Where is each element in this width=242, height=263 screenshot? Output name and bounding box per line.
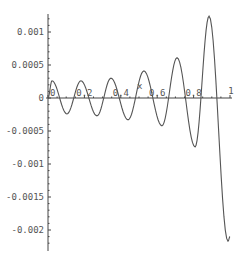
line-chart: 0.0010.00050-0.0005-0.001-0.0015-0.002 0… [0, 0, 242, 263]
y-axis-ticks: 0.0010.00050-0.0005-0.001-0.0015-0.002 [6, 19, 51, 243]
x-tick-label: 0.2 [76, 88, 92, 98]
y-tick-label: -0.0005 [6, 126, 44, 136]
x-axis-label: x [137, 81, 143, 91]
y-tick-label: -0.0015 [6, 192, 44, 202]
y-tick-label: -0.001 [11, 159, 44, 169]
x-tick-label: 0.4 [113, 88, 129, 98]
y-tick-label: -0.002 [11, 225, 44, 235]
x-tick-label: 0 [50, 88, 55, 98]
x-tick-label: 1 [228, 86, 233, 96]
data-curve [48, 16, 230, 241]
y-tick-label: 0.001 [17, 27, 44, 37]
y-tick-label: 0 [39, 93, 44, 103]
y-tick-label: 0.0005 [11, 60, 44, 70]
x-tick-label: 0.8 [185, 88, 201, 98]
